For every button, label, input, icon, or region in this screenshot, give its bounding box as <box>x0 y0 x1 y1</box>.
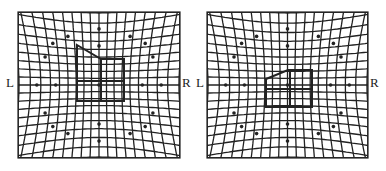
panel-right: L R <box>193 0 386 171</box>
panel-left: L R <box>0 0 193 171</box>
label-left-R: R <box>182 76 191 89</box>
label-right-L: L <box>196 76 204 89</box>
label-left-L: L <box>6 76 14 89</box>
distorted-grid-left <box>0 0 193 171</box>
distorted-grid-right <box>193 0 386 171</box>
label-right-R: R <box>370 76 379 89</box>
